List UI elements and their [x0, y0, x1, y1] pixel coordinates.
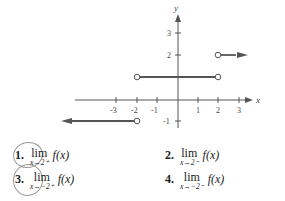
axes	[75, 18, 247, 128]
open-point	[215, 74, 221, 80]
limit-operator: lim x→−2⁺	[30, 172, 54, 191]
function-expression: f(x)	[208, 172, 225, 186]
exercise-1: 1. lim x→2⁺ f(x)	[6, 148, 69, 167]
x-tick-label: -3	[110, 106, 117, 115]
arrow-left-icon	[61, 118, 72, 124]
x-tick-label: 2	[216, 106, 220, 115]
limit-approach: x→−2⁻	[180, 183, 204, 191]
x-tick-label: -1	[151, 106, 158, 115]
exercise-4: 4. lim x→−2⁻ f(x)	[156, 172, 224, 191]
x-tick-label: 3	[237, 106, 241, 115]
y-tick-label: 3	[167, 29, 171, 38]
open-point	[215, 52, 221, 58]
y-tick-label: -1	[163, 117, 170, 126]
exercise-number: 2.	[156, 148, 174, 162]
function-expression: f(x)	[203, 148, 220, 162]
x-tick-label: -2	[131, 106, 138, 115]
limit-approach: x→2⁻	[180, 159, 199, 167]
arrow-right-icon	[237, 52, 248, 58]
exercise-number: 3.	[6, 172, 24, 186]
open-point	[134, 118, 140, 124]
x-axis-arrow-icon	[245, 97, 253, 103]
limit-operator: lim x→2⁺	[30, 148, 49, 167]
limit-operator: lim x→−2⁻	[180, 172, 204, 191]
y-axis-label: y	[173, 3, 178, 13]
function-expression: f(x)	[53, 148, 70, 162]
exercise-2: 2. lim x→2⁻ f(x)	[156, 148, 219, 167]
exercise-number: 4.	[156, 172, 174, 186]
exercise-number: 1.	[6, 148, 24, 162]
y-tick-label: 2	[167, 51, 171, 60]
limit-approach: x→2⁺	[30, 159, 49, 167]
x-axis-label: x	[255, 95, 260, 105]
step-function-graph: x y -3 -2 -1 1 2 3 3 2 -1	[0, 0, 285, 130]
limit-operator: lim x→2⁻	[180, 148, 199, 167]
y-axis-arrow-icon	[175, 14, 181, 22]
limit-approach: x→−2⁺	[30, 183, 54, 191]
x-tick-label: 1	[196, 106, 200, 115]
open-point	[134, 74, 140, 80]
function-expression: f(x)	[58, 172, 75, 186]
exercise-3: 3. lim x→−2⁺ f(x)	[6, 172, 74, 191]
